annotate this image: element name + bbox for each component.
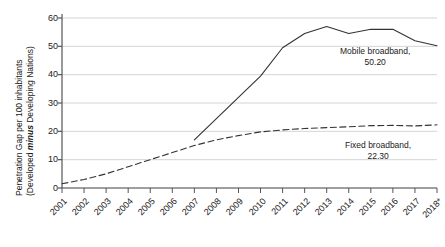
annotation-mobile-label: Mobile broadband, — [340, 46, 410, 57]
annotation-fixed-label: Fixed broadband, — [345, 140, 411, 151]
annotation-mobile-broadband: Mobile broadband, 50.20 — [340, 46, 410, 68]
annotation-fixed-broadband: Fixed broadband, 22.30 — [345, 140, 411, 162]
chart-container: Penetration Gap per 100 inhabitants (Dev… — [0, 0, 445, 247]
annotation-mobile-value: 50.20 — [340, 57, 410, 68]
annotation-fixed-value: 22.30 — [345, 151, 411, 162]
